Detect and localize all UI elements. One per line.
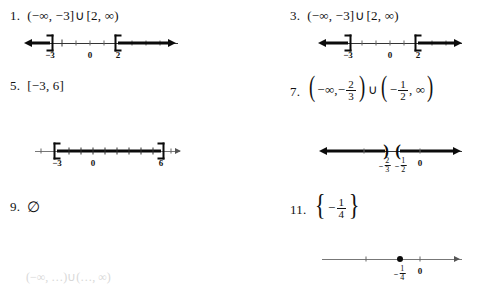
problem-11-number-line: − 1 4 0	[322, 250, 462, 268]
label-zero: 0	[91, 158, 96, 168]
tick-zero-mark	[90, 41, 91, 46]
neg-three: −3	[336, 8, 350, 23]
endpoint-bracket-minus-3	[54, 143, 61, 160]
label-zero: 0	[88, 50, 93, 60]
numerator: 1	[399, 265, 405, 273]
denominator: 3	[384, 165, 390, 174]
arrow-right	[453, 147, 461, 155]
arrow-left	[318, 39, 326, 47]
neg-three: −3	[32, 78, 46, 93]
comma: ,	[49, 8, 52, 23]
comma-2: ,	[98, 8, 101, 23]
numerator: 1	[400, 157, 406, 165]
problem-3-expression: (−∞, −3]∪[2, ∞)	[307, 8, 399, 24]
problem-5: 5. [−3, 6]	[10, 78, 64, 94]
tick-minus-1	[376, 41, 377, 46]
label-fraction: 2 3	[384, 157, 390, 174]
problem-7: 7. (−∞,−23)∪(−12, ∞)	[290, 80, 436, 103]
label-minus-sign: −	[395, 162, 400, 171]
fraction-one-fourth: 14	[337, 197, 347, 220]
six: 6	[53, 78, 60, 93]
label-fraction: 1 2	[400, 157, 406, 174]
tick-one	[104, 41, 105, 46]
label-zero: 0	[388, 50, 393, 60]
denominator: 2	[400, 165, 406, 174]
tick-zero-mark	[420, 257, 421, 262]
endpoint-bracket-6	[158, 143, 165, 160]
union-symbol: ∪	[354, 8, 366, 23]
tick-one	[404, 41, 405, 46]
problem-5-number: 5.	[10, 78, 20, 94]
problem-3-number-line: −3 0 2	[322, 34, 462, 52]
tick-minus-2	[62, 40, 63, 47]
label-minus-sign: −	[394, 270, 399, 279]
ray-right-fill	[418, 42, 456, 45]
problem-7-statement: 7. (−∞,−23)∪(−12, ∞)	[290, 80, 436, 103]
problem-11: 11. {−14}	[290, 198, 362, 221]
infinity: ∞	[416, 82, 425, 97]
denominator: 4	[399, 273, 405, 282]
neg-infinity: −∞	[317, 82, 334, 97]
endpoint-bracket-minus-3	[47, 35, 54, 52]
comma-2: ,	[409, 82, 412, 97]
label-minus-3: −3	[343, 50, 353, 60]
tick-left-minor	[366, 257, 367, 262]
problem-1: 1. (−∞, −3]∪[2, ∞)	[10, 8, 119, 24]
problem-9: 9. ∅	[10, 198, 40, 216]
close-bracket: ]	[60, 78, 65, 93]
label-zero: 0	[418, 266, 423, 276]
tick-minus-2	[69, 148, 70, 155]
tick-minus-1	[76, 41, 77, 46]
denominator: 3	[346, 90, 356, 102]
ray-left-fill	[327, 150, 385, 153]
numerator: 1	[337, 197, 347, 208]
tick-one	[105, 148, 106, 155]
close-paren: )	[114, 8, 119, 23]
label-minus-3: −3	[52, 158, 62, 168]
problem-5-statement: 5. [−3, 6]	[10, 78, 64, 94]
minus-sign: −	[328, 200, 336, 215]
minus-sign-2: −	[390, 82, 398, 97]
problem-1-statement: 1. (−∞, −3]∪[2, ∞)	[10, 8, 119, 24]
tick-three	[129, 148, 130, 155]
problem-9-number: 9.	[10, 199, 20, 215]
point-minus-one-fourth	[397, 256, 403, 262]
problem-1-number-line: −3 0 2	[28, 34, 178, 52]
numerator: 2	[384, 157, 390, 165]
problem-11-expression: {−14}	[313, 198, 361, 221]
union-symbol: ∪	[74, 8, 86, 23]
label-minus-one-fourth: − 1 4	[394, 263, 407, 283]
minus-sign: −	[338, 82, 346, 97]
comma: ,	[46, 78, 49, 93]
tick-two	[117, 148, 118, 155]
axis-line	[322, 259, 462, 260]
label-2: 2	[116, 50, 121, 60]
tick-five	[153, 148, 154, 155]
segment-fill	[57, 150, 161, 153]
numerator: 2	[346, 79, 356, 90]
problem-5-expression: [−3, 6]	[27, 78, 64, 94]
label-fraction: 1 4	[399, 265, 405, 282]
problem-9-statement: 9. ∅	[10, 198, 40, 216]
problem-3: 3. (−∞, −3]∪[2, ∞)	[290, 8, 399, 24]
endpoint-bracket-minus-3	[345, 35, 352, 52]
neg-three: −3	[56, 8, 70, 23]
close-paren: )	[394, 8, 399, 23]
arrow-left	[24, 39, 32, 47]
problem-7-number-line: ) ( − 2 3 − 1 2 0	[322, 142, 462, 160]
union-symbol: ∪	[367, 82, 379, 97]
label-minus-3: −3	[45, 50, 55, 60]
neg-infinity: −∞	[32, 8, 49, 23]
numerator: 1	[398, 79, 408, 90]
infinity: ∞	[105, 8, 114, 23]
tick-zero-mark	[93, 148, 94, 155]
problem-7-number: 7.	[290, 84, 300, 100]
label-minus-sign: −	[379, 162, 384, 171]
label-6: 6	[159, 158, 164, 168]
denominator: 2	[398, 90, 408, 102]
problem-5-number-line: −3 0 6	[35, 142, 180, 160]
problem-9-expression: ∅	[27, 198, 40, 216]
problem-7-expression: (−∞,−23)∪(−12, ∞)	[307, 80, 435, 103]
tick-minus-1	[81, 148, 82, 155]
denominator: 4	[337, 208, 347, 220]
